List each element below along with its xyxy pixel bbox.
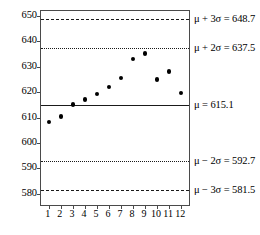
y-axis-tick: [37, 194, 41, 195]
control-line-center: [41, 105, 189, 106]
control-line-lcl3: [41, 190, 189, 191]
data-point: [179, 91, 184, 96]
control-line-label-ucl3: μ + 3σ = 648.7: [194, 13, 255, 24]
data-point: [95, 92, 100, 97]
y-axis-tick: [37, 67, 41, 68]
data-point: [167, 69, 172, 74]
data-point: [143, 51, 148, 56]
data-point: [83, 97, 88, 102]
y-axis-tick-label: 610: [3, 112, 37, 123]
y-axis-tick: [37, 143, 41, 144]
y-axis-tick-label: 630: [3, 61, 37, 72]
control-line-label-lcl3: μ − 3σ = 581.5: [194, 183, 255, 194]
data-point: [107, 85, 112, 90]
y-axis-tick-label: 620: [3, 86, 37, 97]
control-line-label-center: μ = 615.1: [194, 98, 234, 109]
y-axis-tick-label: 590: [3, 162, 37, 173]
y-axis-tick: [37, 118, 41, 119]
control-line-label-ucl2: μ + 2σ = 637.5: [194, 41, 255, 52]
data-point: [119, 76, 124, 81]
y-axis-tick: [37, 41, 41, 42]
y-axis-tick-label: 580: [3, 188, 37, 199]
y-axis-tick: [37, 16, 41, 17]
y-axis-tick-label: 650: [3, 10, 37, 21]
control-line-lcl2: [41, 161, 189, 162]
y-axis-tick-label: 640: [3, 35, 37, 46]
x-axis-tick-label: 12: [171, 209, 189, 219]
data-point: [71, 102, 76, 107]
control-line-label-lcl2: μ − 2σ = 592.7: [194, 155, 255, 166]
data-point: [155, 77, 160, 82]
control-line-ucl3: [41, 19, 189, 20]
data-point: [131, 57, 136, 62]
y-axis-tick: [37, 92, 41, 93]
data-point: [59, 114, 64, 119]
y-axis-tick-label: 600: [3, 137, 37, 148]
data-point: [47, 120, 52, 125]
plot-area: [40, 10, 190, 206]
control-line-ucl2: [41, 48, 189, 49]
y-axis-tick: [37, 168, 41, 169]
control-chart: μ + 3σ = 648.7μ + 2σ = 637.5μ = 615.1μ −…: [0, 0, 260, 235]
